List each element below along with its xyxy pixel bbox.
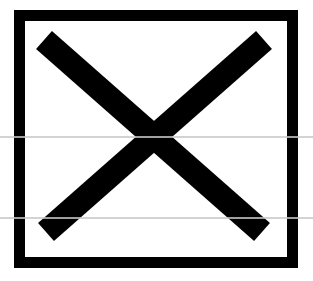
scan-artifact-line bbox=[0, 217, 313, 219]
x-mark-icon bbox=[0, 0, 313, 281]
scan-artifact-line bbox=[0, 136, 313, 138]
